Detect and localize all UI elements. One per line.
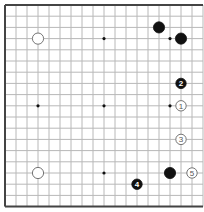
black-stone — [175, 33, 186, 44]
move-number: 2 — [179, 79, 184, 88]
star-point — [102, 104, 105, 107]
black-stone: 4 — [132, 179, 142, 189]
move-number: 4 — [135, 180, 140, 189]
star-point — [102, 37, 105, 40]
white-stone — [32, 167, 43, 178]
go-board: 12345 — [0, 0, 204, 212]
star-point — [168, 37, 171, 40]
white-stone: 5 — [187, 168, 197, 178]
move-number: 1 — [179, 102, 184, 111]
star-point — [102, 171, 105, 174]
black-stone — [153, 22, 164, 33]
star-point — [168, 104, 171, 107]
white-stone — [32, 33, 43, 44]
star-point — [36, 104, 39, 107]
move-number: 5 — [190, 169, 195, 178]
black-stone: 2 — [176, 78, 186, 88]
black-stone — [164, 167, 175, 178]
move-number: 3 — [179, 135, 184, 144]
white-stone: 1 — [176, 101, 186, 111]
white-stone: 3 — [176, 134, 186, 144]
